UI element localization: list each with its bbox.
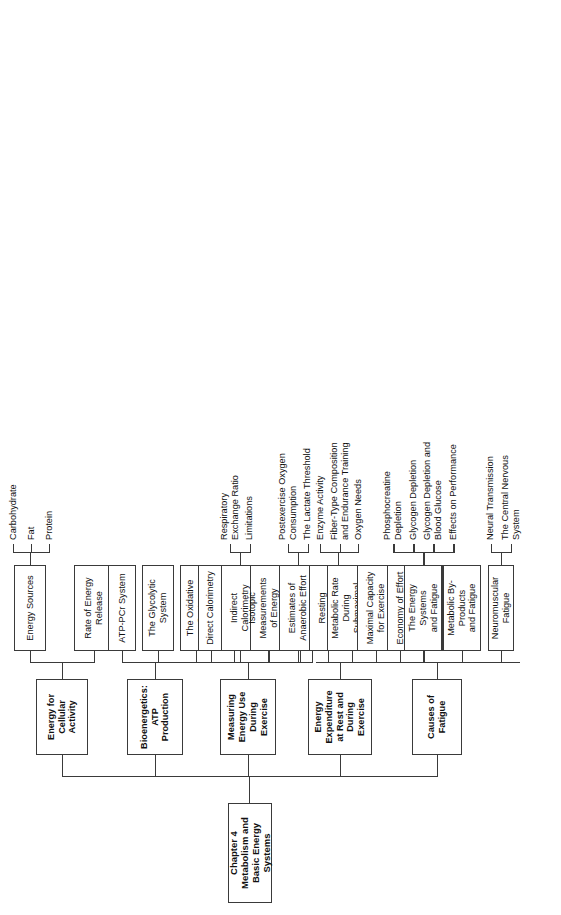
leaf-node-fat: Fat: [23, 452, 39, 542]
child-node-the-energy-systems-and-fatigue: The Energy Systems and Fatigue: [404, 565, 442, 651]
child-connector-2-1: [158, 651, 159, 663]
child-connector-3-0: [211, 651, 212, 663]
leaf-node-the-lactate-threshold: The Lactate Threshold: [301, 422, 315, 542]
branch-stem-1: [62, 663, 63, 679]
leaf-tick-1-0-2: [49, 544, 50, 553]
child-connector-3-1: [240, 651, 241, 663]
branch-stem-4: [340, 663, 341, 679]
child-node-atp-pcr-system: ATP-PCr System: [108, 565, 136, 651]
leaf-spine-3-1: [230, 552, 250, 553]
leaf-node-neural-transmission: Neural Transmission: [484, 412, 498, 542]
leaf-node-effects-on-performance: Effects on Performance: [446, 412, 460, 542]
leaf-tick-3-3-1: [308, 544, 309, 553]
branch-stem-3: [248, 663, 249, 679]
leaf-node-respiratory-exchange-ratio: Respiratory Exchange Ratio: [216, 422, 244, 542]
leaf-tick-5-0-3: [453, 544, 454, 553]
child-connector-4-1: [352, 651, 353, 663]
branch-connector-1: [62, 755, 63, 777]
child-connector-3-2: [269, 651, 270, 663]
root-spine: [62, 776, 437, 777]
child-connector-5-2: [501, 651, 502, 663]
leaf-tick-2-6-0: [320, 544, 321, 553]
branch-connector-2: [155, 755, 156, 777]
leaf-stem-5-2: [501, 553, 502, 565]
leaf-tick-1-0-1: [31, 544, 32, 553]
branch-node-energy-expenditure: Energy Expenditure at Rest and During Ex…: [308, 679, 372, 755]
leaf-node-postexercise-oxygen-consumption: Postexercise Oxygen Consumption: [274, 422, 302, 542]
leaf-node-protein: Protein: [41, 452, 57, 542]
leaf-tick-2-6-2: [358, 544, 359, 553]
child-node-neuromuscular-fatigue: Neuromuscular Fatigue: [488, 565, 514, 651]
leaf-spine-3-3: [288, 552, 308, 553]
leaf-node-carbohydrate: Carbohydrate: [5, 452, 21, 542]
leaf-tick-3-1-1: [250, 544, 251, 553]
leaf-tick-1-0-0: [13, 544, 14, 553]
branch-spine-3: [196, 662, 312, 663]
leaf-stem-1-0: [30, 553, 31, 565]
child-node-energy-sources: Energy Sources: [14, 565, 46, 651]
leaf-tick-2-6-1: [340, 544, 341, 553]
child-node-metabolic-by-products-and-fatigue: Metabolic By-Products and Fatigue: [443, 565, 481, 651]
child-connector-5-0: [423, 651, 424, 663]
leaf-node-fiber-type-composition: Fiber-Type Composition and Endurance Tra…: [328, 412, 352, 542]
leaf-stem-2-6: [338, 553, 339, 565]
branch-node-causes-of-fatigue: Causes of Fatigue: [412, 679, 462, 755]
leaf-tick-5-2-0: [491, 544, 492, 553]
outline-tree-diagram: Chapter 4 Metabolism and Basic Energy Sy…: [0, 0, 561, 915]
leaf-tick-5-0-1: [413, 544, 414, 553]
branch-connector-4: [340, 755, 341, 777]
root-stem: [249, 777, 250, 803]
leaf-spine-5-2: [491, 552, 511, 553]
branch-node-bioenergetics: Bioenergetics: ATP Production: [127, 679, 183, 755]
branch-stem-5: [437, 663, 438, 679]
leaf-tick-5-0-2: [433, 544, 434, 553]
child-connector-2-6: [312, 651, 313, 663]
branch-node-measuring-energy-use: Measuring Energy Use During Exercise: [220, 679, 276, 755]
leaf-spine-5-0: [393, 552, 453, 553]
child-connector-4-3: [400, 651, 401, 663]
leaf-tick-3-1-0: [230, 544, 231, 553]
child-connector-3-3: [298, 651, 299, 663]
leaf-node-glycogen-depletion-and-blood-glucose: Glycogen Depletion and Blood Glucose: [419, 412, 447, 542]
branch-spine-1: [30, 662, 94, 663]
branch-connector-5: [437, 755, 438, 777]
leaf-tick-5-2-1: [511, 544, 512, 553]
child-connector-4-2: [376, 651, 377, 663]
leaf-node-phosphocreatine-depletion: Phosphocreatine Depletion: [379, 412, 407, 542]
child-connector-5-1: [462, 651, 463, 663]
leaf-stem-3-3: [298, 553, 299, 565]
leaf-tick-5-0-0: [393, 544, 394, 553]
child-connector-1-1: [94, 651, 95, 663]
branch-node-energy-cellular-activity: Energy for Cellular Activity: [36, 679, 88, 755]
child-connector-4-0: [328, 651, 329, 663]
leaf-node-the-central-nervous-system: The Central Nervous System: [497, 412, 525, 542]
leaf-node-oxygen-needs: Oxygen Needs: [350, 412, 366, 542]
root-node: Chapter 4 Metabolism and Basic Energy Sy…: [228, 803, 272, 903]
child-node-glycolytic-system: The Glycolytic System: [142, 565, 174, 651]
branch-connector-3: [248, 755, 249, 777]
page-canvas: Chapter 4 Metabolism and Basic Energy Sy…: [0, 0, 561, 915]
child-connector-2-0: [122, 651, 123, 663]
child-connector-1-0: [30, 651, 31, 663]
leaf-stem-5-0: [423, 553, 424, 565]
leaf-node-limitations: Limitations: [243, 422, 257, 542]
root-title-line2: Metabolism and Basic Energy Systems: [239, 807, 273, 899]
branch-stem-2: [155, 663, 156, 679]
leaf-stem-3-1: [240, 553, 241, 565]
leaf-tick-3-3-0: [288, 544, 289, 553]
leaf-node-glycogen-depletion: Glycogen Depletion: [406, 412, 420, 542]
root-title-line1: Chapter 4: [228, 831, 239, 875]
leaf-spine-2-6: [320, 552, 358, 553]
